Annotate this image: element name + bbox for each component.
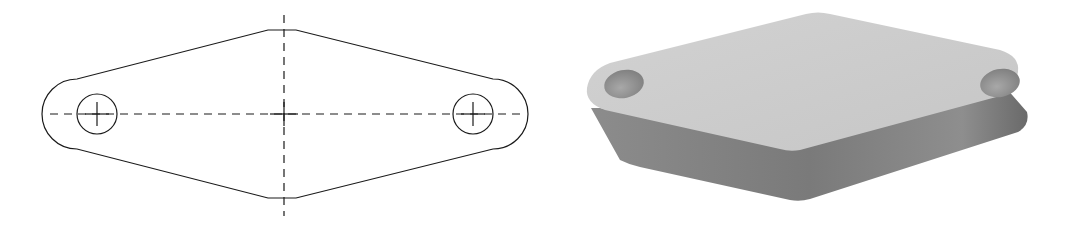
center-marks bbox=[85, 102, 485, 126]
orthographic-top-view bbox=[42, 15, 528, 216]
isometric-3d-view bbox=[587, 13, 1028, 201]
technical-drawing bbox=[0, 0, 1086, 228]
